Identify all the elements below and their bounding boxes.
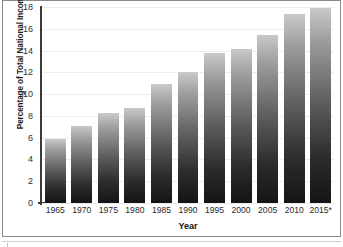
x-axis-tick-labels: 1965197019751980198519901995200020052010… xyxy=(42,205,334,215)
bar[interactable] xyxy=(310,8,331,203)
x-tick-label: 1975 xyxy=(95,205,122,215)
bar[interactable] xyxy=(151,84,172,203)
y-tick-label: 18 xyxy=(0,2,33,12)
bar-slot xyxy=(281,7,308,203)
bar-slot xyxy=(228,7,255,203)
y-tick-label: 12 xyxy=(0,67,33,77)
bar[interactable] xyxy=(257,35,278,203)
bar-slot xyxy=(69,7,96,203)
y-tick-label: 16 xyxy=(0,24,33,34)
y-tick-label: 8 xyxy=(0,111,33,121)
bar[interactable] xyxy=(124,108,145,203)
y-tick-label: 10 xyxy=(0,89,33,99)
y-tick-label: 6 xyxy=(0,133,33,143)
x-tick-label: 1995 xyxy=(201,205,228,215)
bar-slot xyxy=(42,7,69,203)
x-tick-label: 2015* xyxy=(307,205,334,215)
bar-slot xyxy=(148,7,175,203)
bar[interactable] xyxy=(178,72,199,203)
bar-slot xyxy=(175,7,202,203)
bottom-divider xyxy=(2,241,341,242)
gridline xyxy=(42,203,334,204)
y-tick-label: 0 xyxy=(0,198,33,208)
x-tick-label: 1990 xyxy=(175,205,202,215)
bar-slot xyxy=(95,7,122,203)
bar-slot xyxy=(307,7,334,203)
bar-slot xyxy=(254,7,281,203)
bar[interactable] xyxy=(71,126,92,203)
x-axis-title: Year xyxy=(42,221,334,231)
y-tick-label: 2 xyxy=(0,176,33,186)
y-tick-label: 14 xyxy=(0,46,33,56)
x-tick-label: 1985 xyxy=(148,205,175,215)
bar[interactable] xyxy=(45,139,66,203)
bottom-divider-tick xyxy=(7,243,8,247)
bar-series xyxy=(42,7,334,203)
bar[interactable] xyxy=(231,49,252,203)
x-tick-label: 2000 xyxy=(228,205,255,215)
x-tick-label: 1970 xyxy=(69,205,96,215)
bar[interactable] xyxy=(284,14,305,203)
x-tick-label: 1965 xyxy=(42,205,69,215)
figure: Percentage of Total National Income 0246… xyxy=(0,0,343,247)
bar-slot xyxy=(201,7,228,203)
bar[interactable] xyxy=(204,53,225,203)
x-tick-label: 2010 xyxy=(281,205,308,215)
y-axis-tick-labels: 024681012141618 xyxy=(0,0,36,220)
x-tick-label: 2005 xyxy=(254,205,281,215)
bar[interactable] xyxy=(98,113,119,203)
y-tick-label: 4 xyxy=(0,154,33,164)
bar-slot xyxy=(122,7,149,203)
plot-area xyxy=(42,7,334,203)
x-tick-label: 1980 xyxy=(122,205,149,215)
